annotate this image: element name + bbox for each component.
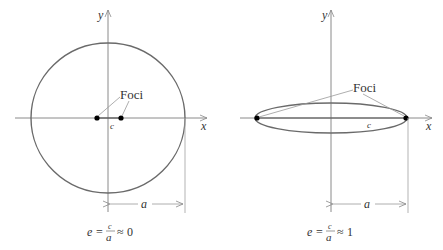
- foci-label: Foci: [353, 80, 377, 95]
- svg-text:0: 0: [127, 225, 133, 239]
- svg-text:e: e: [87, 225, 93, 239]
- svg-text:1: 1: [347, 225, 353, 239]
- eccentricity-formula: e = c a ≈ 0: [87, 222, 133, 243]
- c-label: c: [367, 120, 371, 130]
- y-axis-label: y: [97, 8, 104, 22]
- a-label: a: [141, 197, 147, 211]
- svg-text:a: a: [326, 231, 332, 243]
- x-axis-label: x: [200, 119, 207, 133]
- svg-text:≈: ≈: [117, 225, 124, 239]
- focus-point-right: [118, 115, 123, 120]
- svg-text:e: e: [307, 225, 313, 239]
- c-label: c: [110, 121, 114, 131]
- foci-leader-line: [122, 101, 129, 116]
- svg-text:c: c: [328, 222, 332, 231]
- ellipse-eccentricity-figure: Foci c x y a e = c a ≈ 0 Foci c x y: [0, 0, 443, 250]
- y-axis-label: y: [321, 8, 328, 22]
- diagram-circle-like: Foci c x y a e = c a ≈ 0: [15, 8, 207, 243]
- foci-label: Foci: [120, 87, 144, 102]
- eccentricity-formula: e = c a ≈ 1: [307, 222, 353, 243]
- focus-point-left: [94, 115, 99, 120]
- svg-text:=: =: [316, 225, 323, 239]
- svg-text:a: a: [106, 231, 112, 243]
- svg-text:=: =: [96, 225, 103, 239]
- foci-leader-line: [98, 97, 120, 116]
- svg-text:≈: ≈: [337, 225, 344, 239]
- diagram-flat-ellipse: Foci c x y a e = c a ≈ 1: [240, 8, 432, 243]
- focus-point-left: [254, 115, 259, 120]
- a-label: a: [364, 197, 370, 211]
- x-axis-label: x: [425, 119, 432, 133]
- svg-text:c: c: [108, 222, 112, 231]
